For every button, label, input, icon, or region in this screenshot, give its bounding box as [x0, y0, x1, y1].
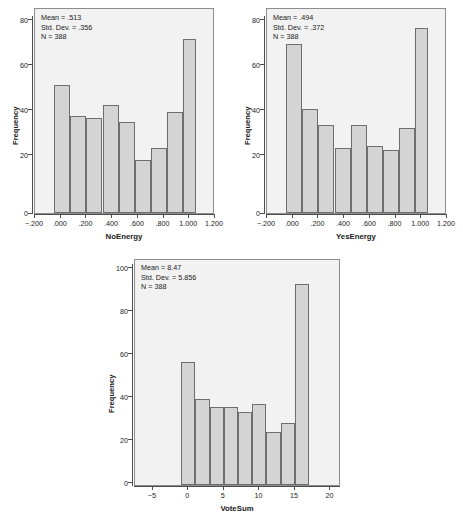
- x-tick-mark: [214, 214, 215, 218]
- stats-annotation-noenergy: Mean = .513 Std. Dev. = .356 N = 388: [41, 13, 92, 42]
- stats-mean: Mean = .513: [41, 13, 92, 23]
- histogram-bar: [181, 362, 195, 485]
- y-tick-mark: [128, 482, 132, 483]
- x-tick-mark: [111, 214, 112, 218]
- x-tick-mark: [294, 486, 295, 490]
- stats-n: N = 388: [273, 32, 324, 42]
- histogram-bar: [119, 122, 135, 213]
- histogram-bar: [70, 116, 86, 213]
- y-tick-label: 100: [106, 264, 128, 273]
- histogram-bar: [335, 148, 351, 213]
- histogram-bar: [183, 39, 196, 213]
- histogram-bar: [399, 128, 415, 213]
- stats-annotation-votesum: Mean = 8.47 Std. Dev. = 5.856 N = 388: [141, 263, 196, 292]
- y-tick-mark: [128, 310, 132, 311]
- x-tick-mark: [266, 214, 267, 218]
- x-axis-line: [266, 214, 446, 215]
- x-tick-mark: [60, 214, 61, 218]
- x-tick-label: 15: [278, 491, 310, 500]
- x-tick-mark: [292, 214, 293, 218]
- y-tick-mark: [260, 19, 264, 20]
- y-tick-mark: [28, 213, 32, 214]
- y-tick-label: 60: [106, 350, 128, 359]
- x-axis-title-yesenergy: YesEnergy: [266, 232, 446, 241]
- y-axis-line: [32, 16, 33, 214]
- stats-n: N = 388: [141, 282, 196, 292]
- histogram-bar: [224, 407, 238, 485]
- y-tick-label: 0: [242, 209, 260, 218]
- histogram-bar: [167, 112, 183, 213]
- x-tick-mark: [369, 214, 370, 218]
- stats-mean: Mean = .494: [273, 13, 324, 23]
- y-tick-label: 60: [242, 61, 260, 70]
- histogram-bar: [367, 146, 383, 213]
- histogram-bar: [295, 284, 309, 485]
- x-tick-mark: [317, 214, 318, 218]
- x-tick-label: 1.200: [198, 219, 230, 228]
- chart-panel-noenergy: Frequency 80 60 40 20 0 Mean = .513 Std.…: [0, 0, 232, 250]
- histogram-bar: [103, 105, 119, 213]
- x-tick-mark: [34, 214, 35, 218]
- x-tick-label: 20: [313, 491, 345, 500]
- y-tick-mark: [260, 109, 264, 110]
- x-tick-mark: [343, 214, 344, 218]
- stats-annotation-yesenergy: Mean = .494 Std. Dev. = .372 N = 388: [273, 13, 324, 42]
- stats-stddev: Std. Dev. = 5.856: [141, 273, 196, 283]
- y-tick-mark: [128, 439, 132, 440]
- histogram-bar: [86, 118, 102, 213]
- x-tick-mark: [188, 214, 189, 218]
- y-tick-label: 0: [106, 479, 128, 488]
- plot-area-votesum: [134, 259, 340, 486]
- histogram-bar: [286, 44, 302, 213]
- y-tick-mark: [260, 213, 264, 214]
- histogram-bar: [195, 399, 209, 486]
- histogram-bar: [238, 412, 252, 486]
- histogram-bar: [318, 125, 334, 213]
- x-tick-mark: [85, 214, 86, 218]
- x-tick-mark: [446, 214, 447, 218]
- x-axis-title-votesum: VoteSum: [134, 504, 340, 513]
- y-tick-mark: [128, 267, 132, 268]
- x-tick-label: 10: [242, 491, 274, 500]
- stats-mean: Mean = 8.47: [141, 263, 196, 273]
- x-tick-label: 1.200: [430, 219, 462, 228]
- x-tick-mark: [137, 214, 138, 218]
- x-tick-mark: [420, 214, 421, 218]
- y-tick-mark: [260, 154, 264, 155]
- x-tick-mark: [329, 486, 330, 490]
- histogram-bar: [210, 407, 224, 485]
- y-tick-label: 20: [242, 151, 260, 160]
- chart-panel-votesum: Frequency 100 80 60 40 20 0 Mean = 8.47 …: [95, 255, 385, 530]
- x-tick-mark: [163, 214, 164, 218]
- x-axis-line: [34, 214, 214, 215]
- y-tick-label: 20: [106, 436, 128, 445]
- histogram-bars-votesum: [135, 260, 339, 485]
- y-tick-mark: [28, 64, 32, 65]
- chart-panel-yesenergy: Frequency 80 60 40 20 0 Mean = .494 Std.…: [232, 0, 463, 250]
- y-tick-label: 40: [10, 106, 28, 115]
- x-tick-mark: [258, 486, 259, 490]
- x-tick-label: 0: [171, 491, 203, 500]
- y-tick-mark: [28, 109, 32, 110]
- histogram-bar: [351, 125, 367, 213]
- y-tick-label: 40: [242, 106, 260, 115]
- histogram-bar: [383, 150, 399, 213]
- x-axis-title-noenergy: NoEnergy: [34, 232, 214, 241]
- y-tick-mark: [28, 19, 32, 20]
- y-axis-line: [264, 16, 265, 214]
- y-tick-label: 20: [10, 151, 28, 160]
- y-tick-label: 40: [106, 393, 128, 402]
- y-tick-mark: [128, 396, 132, 397]
- histogram-bar: [266, 432, 280, 485]
- y-tick-mark: [28, 154, 32, 155]
- x-tick-mark: [395, 214, 396, 218]
- histogram-bar: [151, 148, 167, 213]
- stats-n: N = 388: [41, 32, 92, 42]
- stats-stddev: Std. Dev. = .356: [41, 23, 92, 33]
- x-tick-label: −5: [136, 491, 168, 500]
- histogram-bar: [302, 109, 318, 213]
- x-tick-label: 5: [207, 491, 239, 500]
- x-tick-mark: [152, 486, 153, 490]
- y-tick-label: 80: [242, 16, 260, 25]
- histogram-bar: [54, 85, 70, 213]
